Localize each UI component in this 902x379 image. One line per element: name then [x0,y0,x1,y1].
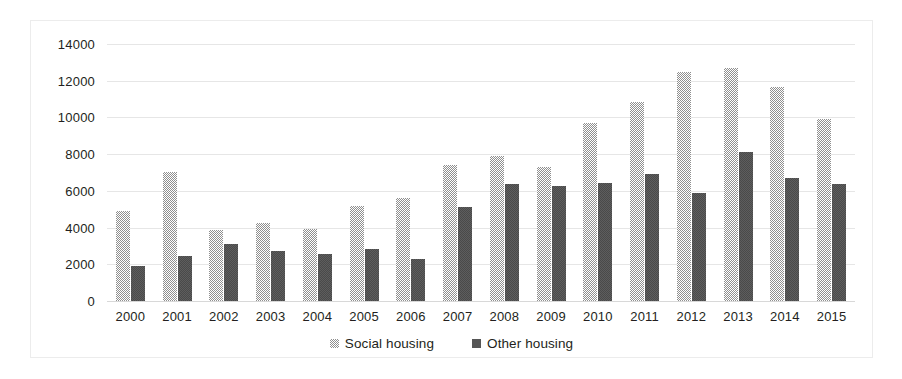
bar-other-housing [645,174,659,301]
x-axis-label: 2011 [621,309,668,324]
bar-other-housing [131,266,145,301]
bar-social-housing [537,167,551,301]
bar-group [294,44,341,301]
y-axis-label: 14000 [58,37,95,52]
x-axis-label: 2000 [107,309,154,324]
legend-swatch-icon [330,339,339,348]
x-axis-label: 2007 [434,309,481,324]
legend-item: Social housing [330,336,434,351]
bar-other-housing [224,244,238,301]
bar-social-housing [724,68,738,301]
legend-item: Other housing [472,336,573,351]
bar-social-housing [256,223,270,301]
y-axis-label: 4000 [65,220,95,235]
bar-group [154,44,201,301]
bar-group [107,44,154,301]
y-axis-label: 8000 [65,147,95,162]
bar-social-housing [209,230,223,301]
bar-social-housing [116,211,130,301]
y-axis-label: 6000 [65,183,95,198]
x-axis-label: 2001 [154,309,201,324]
x-axis-label: 2004 [294,309,341,324]
bar-social-housing [396,198,410,301]
bar-group [575,44,622,301]
y-axis-label: 2000 [65,257,95,272]
y-axis-tick-labels: 02000400060008000100001200014000 [31,44,103,301]
x-axis-label: 2006 [388,309,435,324]
y-axis-label: 12000 [58,73,95,88]
bar-other-housing [598,183,612,301]
x-axis-label: 2010 [575,309,622,324]
bar-other-housing [411,259,425,301]
legend-label: Social housing [345,336,434,351]
bar-social-housing [630,102,644,301]
y-axis-label: 10000 [58,110,95,125]
bar-group [388,44,435,301]
x-axis-tick-labels: 2000200120022003200420052006200720082009… [107,309,855,324]
chart-legend: Social housingOther housing [31,336,872,351]
bar-group [201,44,248,301]
bar-social-housing [817,119,831,301]
bar-group [762,44,809,301]
bar-group [247,44,294,301]
bar-social-housing [303,229,317,302]
bar-social-housing [350,206,364,301]
bar-group [481,44,528,301]
bar-other-housing [318,254,332,301]
plot-area [107,44,855,301]
bar-other-housing [178,256,192,301]
x-axis-label: 2005 [341,309,388,324]
bar-group [715,44,762,301]
gridline [107,301,855,302]
bar-group [668,44,715,301]
bar-other-housing [271,251,285,301]
legend-label: Other housing [487,336,573,351]
bar-group [621,44,668,301]
bar-groups [107,44,855,301]
bar-social-housing [677,72,691,301]
bar-social-housing [770,87,784,301]
bar-other-housing [785,178,799,301]
bar-other-housing [505,184,519,301]
bar-other-housing [692,193,706,301]
y-axis-label: 0 [88,294,95,309]
bar-group [528,44,575,301]
bar-other-housing [739,152,753,301]
bar-other-housing [832,184,846,301]
bar-other-housing [458,207,472,301]
x-axis-label: 2009 [528,309,575,324]
x-axis-label: 2012 [668,309,715,324]
bar-social-housing [163,172,177,301]
bar-other-housing [552,186,566,301]
bar-other-housing [365,249,379,301]
bar-chart: 02000400060008000100001200014000 2000200… [30,20,873,358]
bar-group [341,44,388,301]
x-axis-label: 2013 [715,309,762,324]
bar-group [808,44,855,301]
x-axis-label: 2014 [762,309,809,324]
legend-swatch-icon [472,339,481,348]
bar-social-housing [443,165,457,301]
bar-group [434,44,481,301]
x-axis-label: 2008 [481,309,528,324]
bar-social-housing [490,156,504,301]
x-axis-label: 2015 [808,309,855,324]
bar-social-housing [583,123,597,301]
x-axis-label: 2002 [201,309,248,324]
x-axis-label: 2003 [247,309,294,324]
